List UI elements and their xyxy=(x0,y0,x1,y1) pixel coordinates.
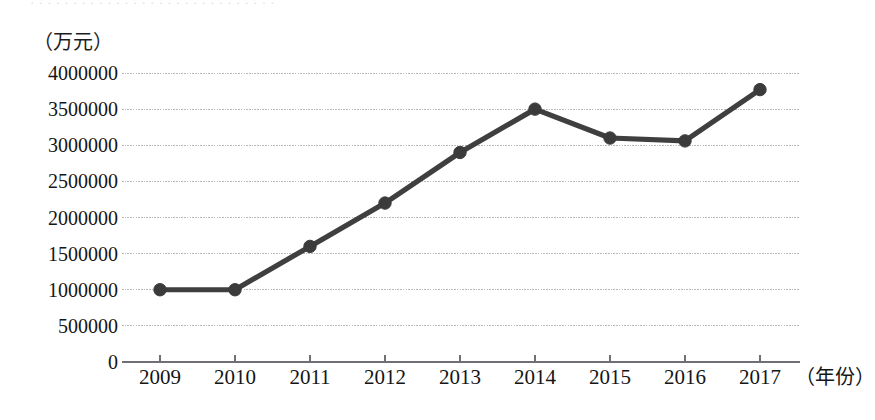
line-chart: · · · · · · · · · · · · · · · · · · · · … xyxy=(0,0,875,420)
x-axis-tick-labels: 200920102011201220132014201520162017 xyxy=(0,0,875,420)
x-axis-unit-label: （年份） xyxy=(795,364,875,390)
